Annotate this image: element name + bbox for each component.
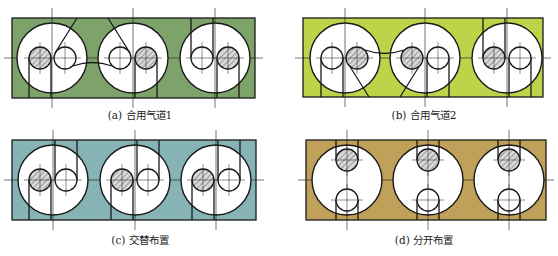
caption-c: (c) 交替布置	[111, 232, 168, 247]
caption-d: (d) 分开布置	[395, 232, 453, 247]
valve-layout-figure	[0, 0, 558, 256]
panel-a	[4, 8, 263, 108]
caption-a: (a) 合用气道1	[108, 107, 172, 122]
panel-d	[298, 130, 554, 230]
panel-c	[4, 130, 264, 230]
caption-b: (b) 合用气道2	[392, 107, 457, 122]
panel-b	[295, 8, 551, 107]
